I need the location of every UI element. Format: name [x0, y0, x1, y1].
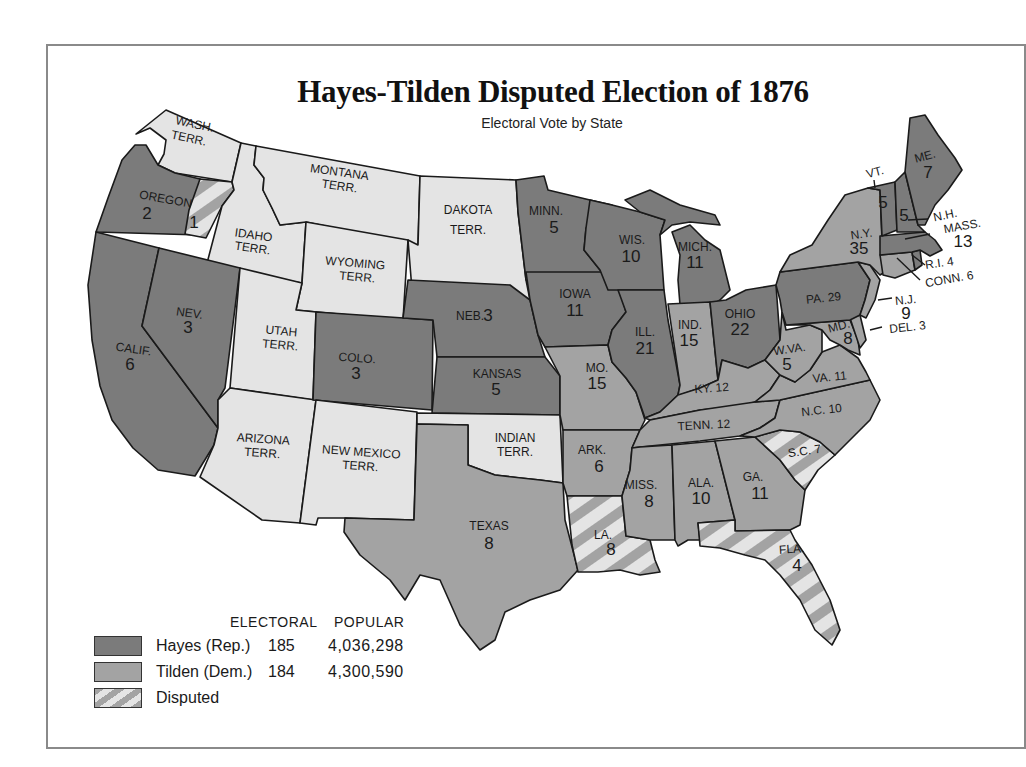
label-minn: MINN.	[529, 204, 563, 218]
svg-text:5: 5	[878, 193, 887, 212]
legend-swatch-hayes	[94, 636, 142, 656]
label-ind: IND.	[678, 318, 702, 332]
label-fla: FLA.	[779, 541, 805, 557]
svg-text:11: 11	[686, 253, 704, 272]
svg-text:10: 10	[692, 489, 711, 508]
svg-text:8: 8	[606, 540, 615, 559]
svg-text:8: 8	[843, 329, 852, 348]
svg-text:22: 22	[731, 320, 750, 339]
legend-swatch-disputed	[94, 688, 142, 708]
label-iowa: IOWA	[559, 287, 591, 301]
legend-swatch-tilden	[94, 662, 142, 682]
label-texas: TEXAS	[469, 519, 508, 533]
svg-text:3: 3	[483, 306, 492, 325]
region-fla[interactable]	[698, 520, 840, 645]
svg-text:8: 8	[484, 534, 493, 553]
label-wis: WIS.	[619, 233, 645, 247]
svg-text:TERR.: TERR.	[450, 223, 486, 237]
label-indian: INDIAN	[495, 431, 536, 445]
svg-text:TERR.: TERR.	[497, 445, 533, 459]
label-neb: NEB.	[456, 309, 484, 323]
label-ky: KY. 12	[694, 380, 730, 396]
svg-text:13: 13	[954, 232, 973, 251]
label-oregon-disputed: 1	[189, 213, 198, 232]
svg-text:15: 15	[680, 331, 699, 350]
svg-text:3: 3	[183, 318, 192, 337]
svg-text:5: 5	[782, 355, 791, 374]
svg-text:5: 5	[491, 380, 500, 399]
label-mich: MICH.	[678, 240, 712, 254]
svg-text:15: 15	[588, 374, 607, 393]
svg-text:11: 11	[751, 484, 769, 503]
label-ohio: OHIO	[725, 307, 756, 321]
svg-text:9: 9	[901, 304, 910, 323]
legend-header-popular: POPULAR	[334, 614, 404, 630]
label-conn: CONN. 6	[924, 268, 975, 290]
svg-text:11: 11	[566, 301, 584, 320]
svg-text:5: 5	[899, 206, 908, 225]
label-dakota: DAKOTA	[444, 203, 492, 217]
label-kansas: KANSAS	[473, 367, 522, 381]
svg-text:4: 4	[792, 556, 801, 575]
label-ga: GA.	[743, 470, 764, 484]
svg-text:7: 7	[923, 163, 932, 182]
svg-text:6: 6	[594, 457, 603, 476]
label-vt: VT.	[865, 163, 885, 181]
svg-text:TERR.: TERR.	[342, 458, 379, 474]
label-ri: R.I. 4	[924, 254, 955, 272]
label-miss: MISS.	[625, 478, 658, 492]
svg-text:2: 2	[142, 204, 151, 223]
legend-header-electoral: ELECTORAL	[230, 614, 318, 630]
region-conn[interactable]	[880, 252, 915, 278]
label-ala: ALA.	[688, 476, 714, 490]
label-ill: ILL.	[635, 325, 655, 339]
label-ark: ARK.	[578, 443, 606, 457]
label-tenn: TENN. 12	[677, 417, 731, 434]
svg-text:35: 35	[850, 239, 869, 258]
svg-text:10: 10	[622, 247, 641, 266]
svg-text:5: 5	[549, 218, 558, 237]
label-mo: MO.	[586, 361, 609, 375]
svg-text:21: 21	[636, 339, 655, 358]
svg-text:8: 8	[644, 492, 653, 511]
svg-text:TERR.: TERR.	[244, 445, 281, 461]
svg-text:6: 6	[125, 355, 134, 374]
svg-text:3: 3	[351, 364, 360, 383]
region-mass[interactable]	[880, 232, 942, 256]
